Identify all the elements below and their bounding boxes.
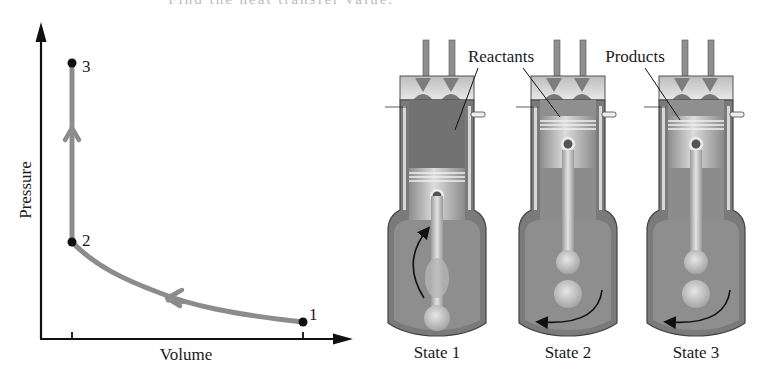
state-label-3: State 3 [673, 343, 720, 362]
pv-diagram: 1 2 3 Volume Pressure [16, 22, 353, 364]
engine-state-2 [516, 40, 617, 336]
engine-state-1 [385, 40, 486, 336]
engine-state-3 [644, 40, 745, 336]
figure: 1 2 3 Volume Pressure Reactants [0, 0, 768, 381]
point-label-1: 1 [309, 305, 318, 324]
y-axis-arrow-icon [36, 22, 47, 42]
reactants-label: Reactants [468, 47, 534, 66]
state-label-2: State 2 [545, 343, 592, 362]
process-curve-1-2 [72, 242, 303, 322]
x-axis-arrow-icon [333, 334, 353, 345]
y-axis-label: Pressure [16, 161, 35, 219]
x-axis-label: Volume [160, 345, 213, 364]
state-point-1 [299, 318, 308, 327]
state-label-1: State 1 [414, 343, 461, 362]
products-label: Products [605, 47, 665, 66]
point-label-2: 2 [82, 231, 91, 250]
state-point-2 [68, 238, 77, 247]
point-label-3: 3 [82, 57, 91, 76]
state-point-3 [68, 59, 77, 68]
